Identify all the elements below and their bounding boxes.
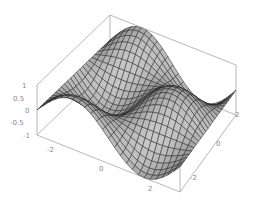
z-tick-1: 1	[22, 82, 26, 90]
surface-plot: 1 0.5 0 -0.5 -1 -2 0 2 -2 0 2	[0, 0, 262, 207]
z-tick-0-5: 0.5	[13, 95, 24, 103]
z-tick-neg-0-5: -0.5	[10, 119, 24, 127]
z-tick-0: 0	[25, 107, 29, 115]
y-tick-2: 2	[235, 111, 239, 119]
x-tick-neg-2: -2	[47, 146, 54, 154]
z-tick-neg-1: -1	[23, 132, 30, 140]
x-tick-0: 0	[99, 165, 103, 173]
y-tick-neg-2: -2	[190, 174, 197, 182]
x-tick-2: 2	[148, 185, 152, 193]
y-tick-0: 0	[216, 140, 220, 148]
